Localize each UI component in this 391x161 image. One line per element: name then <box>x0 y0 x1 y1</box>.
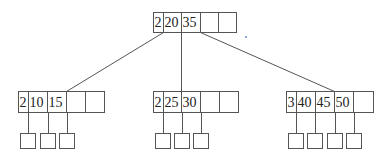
key-cell: 2 <box>155 95 162 110</box>
key-cell: 20 <box>165 15 179 30</box>
key-cell: 25 <box>165 95 179 110</box>
speck-mark <box>245 36 247 38</box>
key-cell: 3 <box>288 95 295 110</box>
tree-edge <box>201 33 335 92</box>
key-cell: 40 <box>298 95 312 110</box>
leaf-box <box>328 134 343 149</box>
child-node-1: 21015 <box>19 92 105 113</box>
b-tree-diagram: 2203521015225303404550 <box>0 0 391 161</box>
leaf-box <box>156 134 171 149</box>
key-cell: 10 <box>30 95 44 110</box>
leaf-box <box>289 134 304 149</box>
leaf-box <box>60 134 75 149</box>
child-node-2: 22530 <box>154 92 239 113</box>
leaf-box <box>21 134 36 149</box>
leaf-box <box>175 134 190 149</box>
key-cell: 2 <box>155 15 162 30</box>
leaf-box <box>41 134 56 149</box>
leaf-box <box>347 134 362 149</box>
root-node: 22035 <box>154 13 237 33</box>
key-cell: 45 <box>317 95 331 110</box>
key-cell: 2 <box>20 95 27 110</box>
leaf-box <box>308 134 323 149</box>
key-cell: 50 <box>336 95 350 110</box>
key-cell: 30 <box>183 95 197 110</box>
tree-edge <box>67 33 164 92</box>
key-cell: 35 <box>183 15 197 30</box>
leaf-box <box>194 134 209 149</box>
edges <box>29 33 355 134</box>
key-cell: 15 <box>49 95 63 110</box>
child-node-3: 3404550 <box>287 92 374 113</box>
